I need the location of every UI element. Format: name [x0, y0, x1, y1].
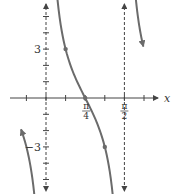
- y-tick-label-neg-3: −3: [25, 141, 41, 154]
- marked-point: [63, 47, 67, 51]
- marked-point: [103, 145, 107, 149]
- x-axis-label: x: [164, 92, 171, 105]
- x-tick-label-pi-over-4-denominator: 4: [83, 111, 89, 121]
- y-axis-down-arrowhead: [43, 186, 49, 192]
- x-tick-label-pi-over-2-numerator: π: [121, 101, 127, 111]
- x-tick-label-pi-over-2-denominator: 2: [122, 111, 128, 121]
- y-tick-label-3: 3: [34, 43, 41, 56]
- marked-point: [83, 96, 87, 100]
- cotangent-graph: x 3 −3 π 4 π 2: [0, 0, 184, 194]
- asymptote-down-arrowhead: [121, 186, 127, 192]
- branch-right: [133, 0, 143, 46]
- curves: [21, 0, 143, 194]
- branch-left: [21, 129, 37, 194]
- x-tick-label-pi-over-4-numerator: π: [83, 101, 89, 111]
